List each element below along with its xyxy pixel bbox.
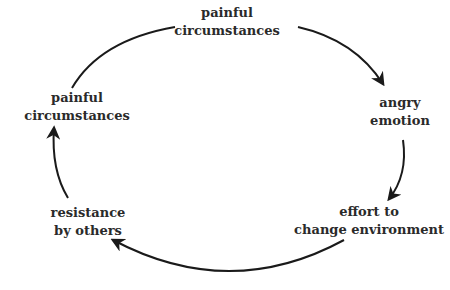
node-left-painful-circumstances: painful circumstances	[24, 89, 130, 125]
node-label-line1: resistance	[51, 204, 126, 222]
arrow-top-to-right	[298, 27, 383, 84]
node-label-line2: circumstances	[174, 22, 280, 40]
node-effort-to-change-environment: effort to change environment	[294, 203, 444, 239]
cycle-diagram: painful circumstances angry emotion effo…	[0, 0, 450, 290]
node-label-line1: angry	[370, 94, 430, 112]
node-label-line1: effort to	[294, 203, 444, 221]
node-label-line1: painful	[24, 89, 130, 107]
connector-left-to-top	[72, 27, 175, 88]
node-top-painful-circumstances: painful circumstances	[174, 4, 280, 40]
arrow-bottom-left-to-left	[54, 128, 68, 198]
arrow-bottom-right-to-bottom-left	[113, 240, 344, 271]
node-label-line1: painful	[174, 4, 280, 22]
arrow-right-to-bottom-right	[389, 140, 404, 199]
node-label-line2: change environment	[294, 221, 444, 239]
node-label-line2: by others	[51, 222, 126, 240]
node-label-line2: emotion	[370, 112, 430, 130]
node-angry-emotion: angry emotion	[370, 94, 430, 130]
node-resistance-by-others: resistance by others	[51, 204, 126, 240]
arrows-layer	[0, 0, 450, 290]
node-label-line2: circumstances	[24, 107, 130, 125]
